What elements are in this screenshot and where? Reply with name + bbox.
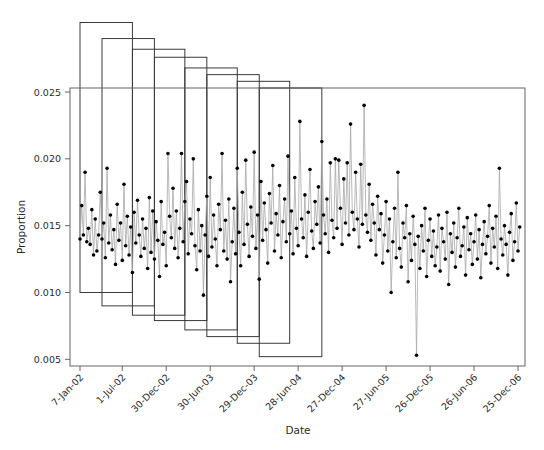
data-point: [290, 209, 294, 213]
data-point: [95, 249, 99, 253]
y-tick-label: 0.010: [34, 287, 61, 298]
data-point: [129, 225, 133, 229]
data-point: [308, 168, 312, 172]
data-point: [423, 206, 427, 210]
data-point: [285, 240, 289, 244]
data-point: [498, 166, 502, 170]
data-point: [515, 201, 519, 205]
data-point: [263, 201, 267, 205]
data-point: [508, 231, 512, 235]
data-point: [312, 247, 316, 251]
data-point: [148, 196, 152, 200]
data-point: [413, 243, 417, 247]
data-point: [481, 243, 485, 247]
data-point: [469, 232, 473, 236]
data-point: [266, 261, 270, 265]
data-point: [425, 275, 429, 279]
data-point: [322, 213, 326, 217]
data-point: [440, 227, 444, 231]
data-point: [452, 221, 456, 225]
data-point: [241, 190, 245, 194]
data-point: [212, 213, 216, 217]
data-point: [264, 228, 268, 232]
data-point: [516, 249, 520, 253]
data-point: [318, 241, 322, 245]
data-point: [454, 265, 458, 269]
y-tick-label: 0.005: [34, 354, 61, 365]
data-point: [269, 221, 273, 225]
data-point: [207, 255, 211, 259]
data-point: [340, 243, 344, 247]
data-point: [251, 235, 255, 239]
data-point: [122, 182, 126, 186]
data-point: [222, 249, 226, 253]
data-point: [366, 231, 370, 235]
data-point: [484, 252, 488, 256]
data-point: [252, 150, 256, 154]
data-point: [234, 252, 238, 256]
data-point: [388, 217, 392, 221]
data-point: [501, 253, 505, 257]
data-point: [176, 256, 180, 260]
data-point: [298, 120, 302, 124]
data-point: [464, 273, 468, 277]
data-point: [342, 177, 346, 181]
data-point: [242, 243, 246, 247]
data-point: [181, 240, 185, 244]
data-point: [337, 158, 341, 162]
data-point: [156, 239, 160, 243]
data-point: [230, 240, 234, 244]
data-point: [163, 231, 167, 235]
data-point: [291, 252, 295, 256]
data-point: [105, 166, 109, 170]
data-point: [372, 221, 376, 225]
data-point: [506, 273, 510, 277]
data-point: [254, 247, 258, 251]
data-point: [296, 244, 300, 248]
data-point: [361, 223, 365, 227]
data-point: [376, 194, 380, 198]
data-point: [153, 257, 157, 261]
data-point: [80, 204, 84, 208]
data-point: [415, 354, 419, 358]
data-point: [383, 233, 387, 237]
y-tick-label: 0.025: [34, 87, 61, 98]
x-axis-title: Date: [285, 424, 310, 436]
data-point: [427, 239, 431, 243]
data-point: [88, 243, 92, 247]
data-point: [197, 208, 201, 212]
data-point: [92, 253, 96, 257]
data-point: [198, 249, 202, 253]
data-point: [420, 224, 424, 228]
data-point: [449, 232, 453, 236]
data-point: [496, 267, 500, 271]
data-point: [159, 200, 163, 204]
data-point: [137, 233, 141, 237]
data-point: [493, 245, 497, 249]
data-point: [354, 170, 358, 174]
data-point: [213, 237, 217, 241]
data-point: [244, 158, 248, 162]
data-point: [186, 252, 190, 256]
data-point: [202, 293, 206, 297]
data-point: [120, 259, 124, 263]
data-point: [442, 240, 446, 244]
data-point: [445, 211, 449, 215]
data-point: [195, 268, 199, 272]
data-point: [271, 164, 275, 168]
data-point: [107, 241, 111, 245]
data-point: [183, 200, 187, 204]
data-point: [374, 253, 378, 257]
data-point: [378, 228, 382, 232]
data-point: [274, 212, 278, 216]
data-point: [433, 264, 437, 268]
data-point: [400, 265, 404, 269]
data-point: [288, 232, 292, 236]
data-point: [144, 227, 148, 231]
data-point: [437, 213, 441, 217]
data-point: [334, 157, 338, 161]
data-point: [362, 104, 366, 108]
data-point: [273, 249, 277, 253]
data-point: [132, 211, 136, 215]
data-point: [229, 280, 233, 284]
